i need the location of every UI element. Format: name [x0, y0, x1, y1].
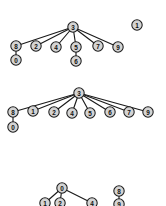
graph-node-label: 7: [96, 43, 100, 50]
graph-node[interactable]: 3: [74, 88, 84, 98]
graph-node-label: 2: [58, 200, 62, 206]
graph-node-label: 8: [117, 188, 121, 195]
graph-node-label: 4: [54, 44, 58, 51]
graph-node[interactable]: 0: [57, 183, 67, 193]
graph-node[interactable]: 5: [85, 108, 95, 118]
graph-node-label: 1: [135, 22, 139, 29]
graph-node-label: 5: [88, 110, 92, 117]
graph-node-label: 2: [52, 109, 56, 116]
graph-node[interactable]: 4: [67, 108, 77, 118]
graph-node[interactable]: 7: [124, 107, 134, 117]
graph-node-label: 0: [60, 185, 64, 192]
graph-node-label: 6: [108, 109, 112, 116]
graph-node[interactable]: 6: [105, 107, 115, 117]
graph-node[interactable]: 1: [40, 198, 50, 206]
graph-node-label: 9: [116, 44, 120, 51]
graph-node-group: 3812456790: [8, 88, 153, 132]
graph-node[interactable]: 2: [31, 41, 41, 51]
graph-node[interactable]: 2: [55, 198, 65, 206]
graph-node[interactable]: 1: [132, 20, 142, 30]
graph-node[interactable]: 8: [8, 107, 18, 117]
graph-node-label: 1: [43, 200, 47, 206]
graph-node-label: 8: [14, 43, 18, 50]
graph-node[interactable]: 9: [113, 42, 123, 52]
graph-node[interactable]: 4: [87, 198, 97, 206]
graph-node-label: 3: [71, 24, 75, 31]
graph-node[interactable]: 1: [28, 106, 38, 116]
graph-node-label: 1: [31, 108, 35, 115]
graph-node-label: 4: [90, 200, 94, 206]
graph-node-label: 5: [74, 44, 78, 51]
graph-node[interactable]: 3: [68, 22, 78, 32]
graph-node[interactable]: 4: [51, 42, 61, 52]
nodes-layer: 38245790613812456790012489: [8, 20, 153, 206]
graph-node-group: 3824579061: [11, 20, 142, 66]
graph-canvas: 38245790613812456790012489: [0, 0, 166, 206]
graph-node[interactable]: 0: [8, 122, 18, 132]
graph-node[interactable]: 2: [49, 107, 59, 117]
graph-node-label: 3: [77, 90, 81, 97]
graph-node-label: 2: [34, 43, 38, 50]
graph-node-label: 9: [117, 201, 121, 206]
graph-node[interactable]: 0: [11, 55, 21, 65]
graph-node-label: 9: [146, 109, 150, 116]
graph-figure-container: 38245790613812456790012489: [0, 0, 166, 206]
graph-node-label: 0: [14, 57, 18, 64]
graph-node[interactable]: 8: [114, 186, 124, 196]
graph-node[interactable]: 8: [11, 41, 21, 51]
graph-node-label: 7: [127, 109, 131, 116]
graph-node-label: 4: [70, 110, 74, 117]
graph-node-group: 012489: [40, 183, 124, 206]
graph-node[interactable]: 5: [71, 42, 81, 52]
graph-node-label: 0: [11, 124, 15, 131]
graph-node[interactable]: 6: [71, 56, 81, 66]
graph-node[interactable]: 9: [114, 199, 124, 206]
graph-node-label: 6: [74, 58, 78, 65]
graph-node-label: 8: [11, 109, 15, 116]
graph-node[interactable]: 9: [143, 107, 153, 117]
graph-node[interactable]: 7: [93, 41, 103, 51]
